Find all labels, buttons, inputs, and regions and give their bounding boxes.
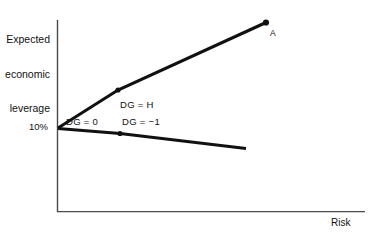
series-marker-dg-neg1-mid (117, 131, 122, 136)
chart-figure: Expected economic leverage 10% Risk DG =… (0, 0, 368, 234)
annotation-dg-zero: DG = 0 (66, 116, 98, 127)
y-axis-title-line-1: Expected (0, 34, 50, 46)
series-marker-dg-h-endpoint-a (263, 19, 269, 25)
annotation-point-a: A (270, 28, 276, 39)
annotation-dg-negative-one: DG = −1 (122, 116, 160, 127)
series-line-dg-neg1 (58, 129, 246, 149)
y-axis-tick-label-10-percent: 10% (22, 121, 48, 132)
y-axis-title-line-3: leverage (0, 103, 50, 115)
series-line-dg-h (58, 23, 266, 129)
y-axis-title-line-2: economic (0, 69, 50, 81)
x-axis-title: Risk (331, 217, 350, 228)
annotation-dg-h: DG = H (120, 99, 154, 110)
chart-plot-area (0, 0, 368, 234)
y-axis-title: Expected economic leverage (0, 11, 50, 138)
series-marker-dg-h-mid (115, 87, 120, 92)
